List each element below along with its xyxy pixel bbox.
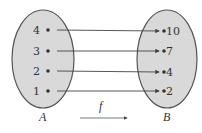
domain-element-label: 4 [33,24,40,37]
codomain-element-label: 4 [166,66,173,79]
domain-dot [46,89,50,93]
set-a-ellipse [12,10,74,108]
domain-dot [46,49,50,53]
domain-dot [46,69,50,73]
diagram-canvas: 4 3 2 1 10 7 4 2 A B [0,0,202,133]
codomain-set-name: B [163,110,171,124]
function-label: f [99,99,104,113]
codomain-element-label: 2 [166,85,173,98]
domain-element-label: 3 [33,45,40,58]
domain-element-label: 2 [33,65,40,78]
domain-element-label: 1 [33,85,40,98]
domain-set-name: A [38,110,47,124]
function-mapping-diagram: 4 3 2 1 10 7 4 2 A B [0,0,202,133]
codomain-element-label: 7 [166,45,173,58]
domain-dot [46,28,50,32]
codomain-element-label: 10 [166,25,180,38]
